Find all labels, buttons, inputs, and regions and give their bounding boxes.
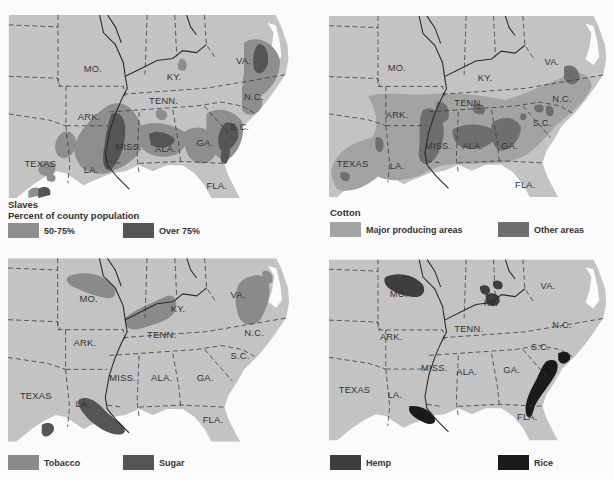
state-label-la: LA. bbox=[84, 164, 99, 175]
state-label-sc: S.C. bbox=[531, 342, 550, 352]
legend-item-hemp: Hemp bbox=[330, 455, 391, 470]
tobacco-sugar-map: MO. KY. VA. N.C. TENN. ARK. S.C. MISS. A… bbox=[8, 258, 296, 442]
slaves-map-panel: MO. KY. VA. N.C. TENN. ARK. S.C. MISS. A… bbox=[0, 0, 307, 240]
state-label-fla: FLA. bbox=[203, 414, 224, 425]
state-label-ga: GA. bbox=[501, 141, 518, 151]
state-label-tenn: TENN. bbox=[147, 329, 176, 340]
tobacco-sugar-map-panel: MO. KY. VA. N.C. TENN. ARK. S.C. MISS. A… bbox=[0, 240, 307, 479]
state-label-ky: KY. bbox=[171, 303, 186, 314]
legend-label: Sugar bbox=[159, 458, 185, 468]
legend-label: 50-75% bbox=[44, 226, 75, 236]
cotton-map-panel: MO. KY. VA. N.C. TENN. ARK. S.C. MISS. A… bbox=[307, 0, 614, 240]
state-label-sc: S.C. bbox=[533, 118, 552, 128]
swatch-over-75 bbox=[123, 223, 154, 238]
legend-label: Over 75% bbox=[159, 226, 200, 236]
state-label-ala: ALA. bbox=[155, 143, 176, 154]
legend-item-slaves-over-75: Over 75% bbox=[123, 223, 200, 238]
state-label-nc: N.C. bbox=[552, 94, 571, 104]
state-label-sc: S.C. bbox=[230, 121, 249, 132]
cotton-legend-title: Cotton bbox=[330, 207, 361, 218]
legend-label: Major producing areas bbox=[366, 225, 463, 235]
state-label-ala: ALA. bbox=[151, 372, 172, 383]
state-label-ark: ARK. bbox=[78, 111, 101, 122]
state-label-texas: TEXAS bbox=[24, 158, 56, 169]
legend-label: Tobacco bbox=[44, 458, 80, 468]
legend-label: Rice bbox=[534, 458, 553, 468]
state-label-la: LA. bbox=[76, 398, 91, 409]
legend-label: Other areas bbox=[534, 225, 584, 235]
swatch-rice bbox=[498, 455, 529, 470]
swatch-sugar bbox=[123, 455, 154, 470]
state-label-fla: FLA. bbox=[517, 412, 537, 422]
state-label-miss: MISS. bbox=[115, 141, 142, 152]
swatch-hemp bbox=[330, 455, 361, 470]
legend-item-cotton-other: Other areas bbox=[498, 222, 584, 237]
state-label-miss: MISS. bbox=[109, 372, 136, 383]
state-label-fla: FLA. bbox=[206, 180, 227, 191]
state-label-miss: MISS. bbox=[421, 363, 447, 373]
state-label-nc: N.C. bbox=[244, 327, 264, 338]
swatch-cotton-other bbox=[498, 222, 529, 237]
state-label-mo: MO. bbox=[390, 289, 408, 299]
state-label-ky: KY. bbox=[478, 73, 492, 83]
slaves-legend-subtitle: Percent of county population bbox=[8, 210, 139, 221]
state-label-texas: TEXAS bbox=[339, 385, 370, 395]
state-label-va: VA. bbox=[544, 57, 559, 67]
state-label-ala: ALA. bbox=[462, 141, 483, 151]
state-label-tenn: TENN. bbox=[149, 95, 178, 106]
state-label-tenn: TENN. bbox=[454, 324, 483, 334]
state-label-mo: MO. bbox=[388, 63, 406, 73]
state-label-ark: ARK. bbox=[386, 110, 408, 120]
slaves-map: MO. KY. VA. N.C. TENN. ARK. S.C. MISS. A… bbox=[8, 15, 296, 198]
state-label-va: VA. bbox=[541, 281, 556, 291]
state-label-fla: FLA. bbox=[515, 180, 535, 190]
swatch-cotton-major bbox=[330, 222, 361, 237]
swatch-50-75 bbox=[8, 223, 39, 238]
state-label-tenn: TENN. bbox=[454, 98, 483, 108]
legend-label: Hemp bbox=[366, 458, 391, 468]
state-label-sc: S.C. bbox=[230, 350, 249, 361]
state-label-mo: MO. bbox=[80, 293, 98, 304]
state-label-va: VA. bbox=[230, 289, 245, 300]
state-label-miss: MISS. bbox=[425, 141, 451, 151]
state-label-la: LA. bbox=[390, 161, 405, 171]
state-label-mo: MO. bbox=[84, 63, 102, 74]
hemp-rice-map-panel: MO. KY. VA. N.C. TENN. ARK. S.C. MISS. A… bbox=[307, 240, 614, 479]
hemp-rice-map: MO. KY. VA. N.C. TENN. ARK. S.C. MISS. A… bbox=[329, 258, 613, 442]
state-label-ark: ARK. bbox=[380, 332, 402, 342]
legend-item-slaves-50-75: 50-75% bbox=[8, 223, 75, 238]
state-label-ga: GA. bbox=[197, 137, 214, 148]
cotton-map: MO. KY. VA. N.C. TENN. ARK. S.C. MISS. A… bbox=[329, 15, 613, 198]
state-label-ga: GA. bbox=[197, 372, 214, 383]
state-label-la: LA. bbox=[388, 390, 403, 400]
state-label-texas: TEXAS bbox=[337, 159, 368, 169]
slaves-legend-title: Slaves bbox=[8, 199, 38, 210]
legend-item-tobacco: Tobacco bbox=[8, 455, 80, 470]
state-label-ky: KY. bbox=[167, 71, 181, 82]
legend-item-cotton-major: Major producing areas bbox=[330, 222, 463, 237]
state-label-nc: N.C. bbox=[552, 320, 571, 330]
state-label-texas: TEXAS bbox=[20, 390, 52, 401]
state-label-nc: N.C. bbox=[244, 91, 264, 102]
state-label-ala: ALA. bbox=[456, 367, 477, 377]
legend-item-sugar: Sugar bbox=[123, 455, 185, 470]
state-label-ark: ARK. bbox=[74, 337, 97, 348]
state-label-va: VA. bbox=[236, 55, 251, 66]
swatch-tobacco bbox=[8, 455, 39, 470]
state-label-ky: KY. bbox=[484, 298, 498, 308]
legend-item-rice: Rice bbox=[498, 455, 553, 470]
state-label-ga: GA. bbox=[503, 365, 520, 375]
